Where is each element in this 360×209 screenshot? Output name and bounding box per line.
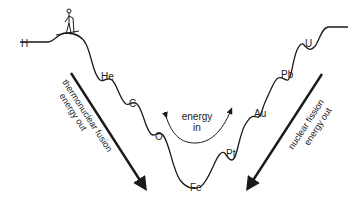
element-label-pb: Pb (281, 69, 294, 80)
element-label-au: Au (254, 108, 266, 119)
fusion-label-line1: thermonuclear fusion (60, 78, 114, 154)
energy-in-label-line1: energy (182, 111, 213, 122)
element-label-c: C (129, 98, 136, 109)
element-label-fe: Fe (190, 182, 202, 193)
element-label-he: He (101, 71, 114, 82)
energy-in-label-line2: in (193, 122, 201, 133)
stick-figure-icon (56, 9, 79, 35)
element-label-pt: Pt (226, 148, 236, 159)
energy-landscape-diagram: H He C O Fe Pt Au Pb U energy in thermon… (0, 0, 360, 209)
element-label-h: H (21, 38, 28, 49)
element-label-o: O (155, 131, 163, 142)
element-label-u: U (305, 38, 312, 49)
